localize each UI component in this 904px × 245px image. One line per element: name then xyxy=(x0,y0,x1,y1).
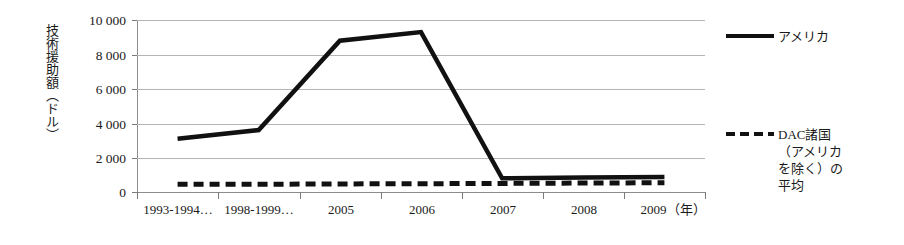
y-tick-label: 2 000 xyxy=(60,152,126,166)
x-tick-mark xyxy=(381,192,382,199)
x-tick-label: 1998-1999… xyxy=(224,203,293,216)
x-tick-mark xyxy=(624,192,625,199)
plot-area xyxy=(137,20,705,192)
x-tick-mark xyxy=(300,192,301,199)
x-tick-label: 2006 xyxy=(409,203,435,216)
gridline-zero xyxy=(137,192,705,193)
line-chart-figure: 技術援助額（ドル） 10 000 8 000 6 000 4 000 2 000… xyxy=(0,0,904,245)
x-tick-label: 2007 xyxy=(490,203,516,216)
legend-label: DAC諸国 （アメリカ を除く）の 平均 xyxy=(778,126,843,195)
y-tick-label: 8 000 xyxy=(60,49,126,63)
x-tick-mark xyxy=(137,192,138,199)
legend-label-line: を除く）の xyxy=(778,161,843,176)
legend-entry-dac-average: DAC諸国 （アメリカ を除く）の 平均 xyxy=(726,126,843,195)
series-line-america xyxy=(178,32,665,178)
series-plot xyxy=(137,20,705,192)
legend-label-line: 平均 xyxy=(778,178,804,193)
x-tick-label: 2008 xyxy=(571,203,597,216)
legend-label: アメリカ xyxy=(778,28,829,45)
x-tick-mark xyxy=(218,192,219,199)
legend-swatch-solid-line-icon xyxy=(726,28,774,42)
x-tick-label: 2005 xyxy=(328,203,354,216)
x-tick-label: 2009（年） xyxy=(641,203,706,216)
x-tick-label: 1993-1994… xyxy=(143,203,212,216)
y-tick-label: 10 000 xyxy=(60,14,126,28)
legend-label-line: DAC諸国 xyxy=(778,127,831,142)
y-tick-label: 6 000 xyxy=(60,83,126,97)
x-tick-mark xyxy=(462,192,463,199)
legend-swatch-dashed-line-icon xyxy=(726,126,774,140)
y-axis-tick-labels: 10 000 8 000 6 000 4 000 2 000 0 xyxy=(60,0,126,245)
y-tick-label: 4 000 xyxy=(60,118,126,132)
legend-label-line: （アメリカ xyxy=(778,144,842,159)
series-line-dac-average xyxy=(178,183,665,185)
x-tick-mark xyxy=(543,192,544,199)
y-axis-title: 技術援助額（ドル） xyxy=(36,24,58,204)
x-tick-mark xyxy=(705,192,706,199)
y-tick-label: 0 xyxy=(60,186,126,200)
legend-entry-america: アメリカ xyxy=(726,28,829,45)
